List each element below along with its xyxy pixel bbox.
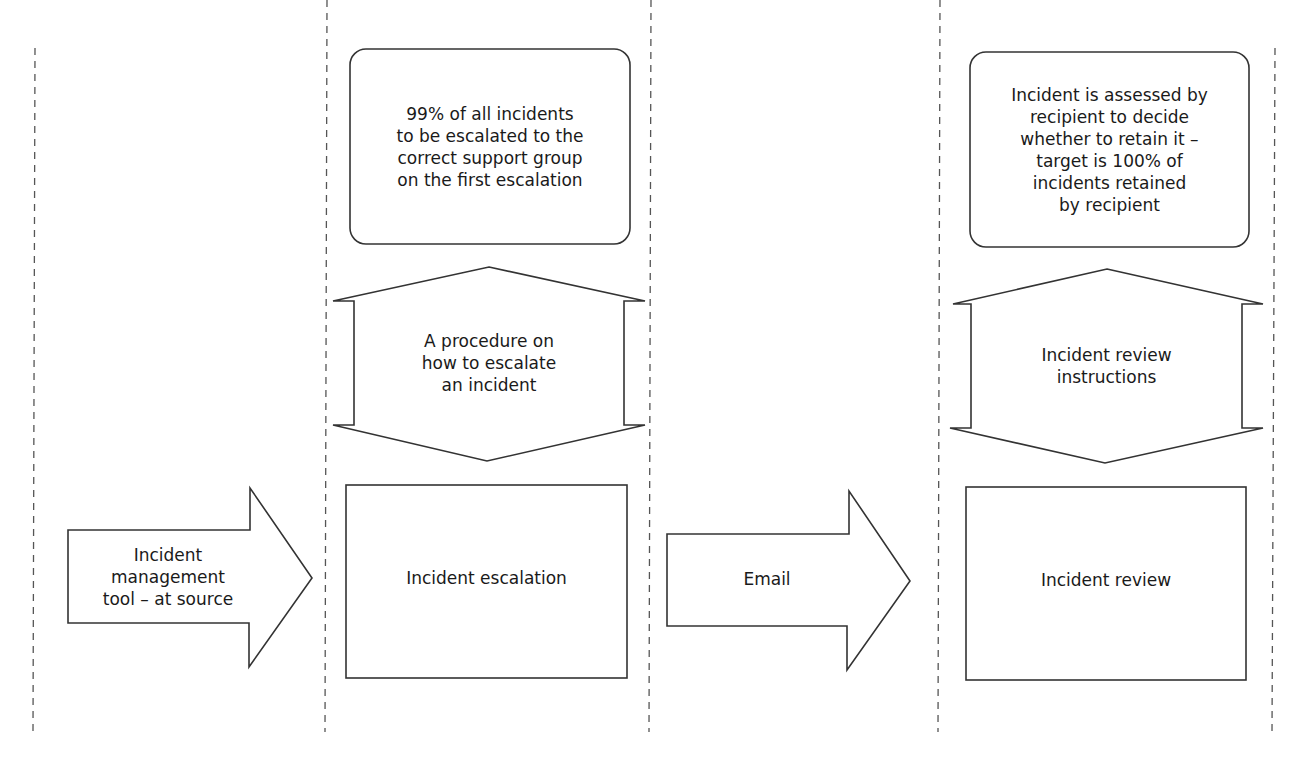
target-text-escalation: 99% of all incidents to be escalated to … xyxy=(350,49,630,244)
control-text-review: Incident review instructions xyxy=(971,304,1242,428)
input-label-tool: Incident management tool – at source xyxy=(68,530,268,623)
divider-2 xyxy=(325,0,327,732)
control-text-escalation: A procedure on how to escalate an incide… xyxy=(354,301,624,425)
divider-5 xyxy=(1272,48,1275,732)
divider-3 xyxy=(649,0,651,732)
target-text-review: Incident is assessed by recipient to dec… xyxy=(970,52,1249,247)
divider-1 xyxy=(33,48,35,732)
process-label-review: Incident review xyxy=(966,487,1246,672)
divider-4 xyxy=(938,0,940,732)
process-label-escalation: Incident escalation xyxy=(346,485,627,670)
input-label-email: Email xyxy=(667,534,867,624)
